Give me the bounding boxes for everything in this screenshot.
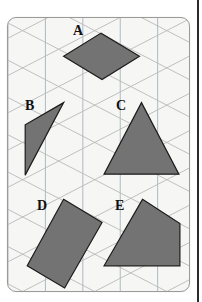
margin-clipped-glyph: s (0, 221, 7, 235)
scanned-page: s ABCDE (0, 0, 202, 302)
shape-b-thin-triangle[interactable] (25, 103, 63, 176)
shape-label-d: D (37, 199, 47, 213)
figure-panel: ABCDE (7, 17, 190, 292)
shapes-layer (8, 18, 189, 291)
shape-label-a: A (73, 24, 83, 38)
shape-a-rhombus[interactable] (64, 33, 140, 79)
shape-label-e: E (115, 199, 124, 213)
page-edge-artifact (197, 0, 199, 302)
shapes-svg (8, 18, 189, 291)
shape-label-b: B (25, 99, 34, 113)
shape-c-equilateral-triangle[interactable] (104, 103, 179, 175)
shape-label-c: C (116, 99, 126, 113)
